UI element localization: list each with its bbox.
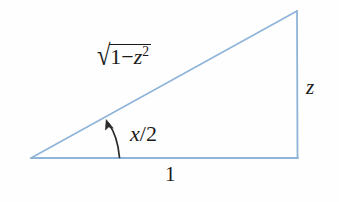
radicand-variable: z — [134, 44, 143, 69]
angle-variable: x — [130, 121, 140, 146]
opposite-side-label: z — [306, 77, 314, 98]
radicand-exponent: 2 — [142, 44, 149, 59]
geometry-figure: √1−z2 x/2 z 1 — [0, 0, 339, 202]
triangle-hypotenuse-line — [31, 11, 297, 158]
angle-arrow-curve — [109, 124, 120, 158]
hypotenuse-label: √1−z2 — [97, 44, 151, 71]
triangle-vertical-line — [297, 11, 298, 158]
angle-denominator: 2 — [146, 121, 157, 146]
radical-expression: √1−z2 — [97, 44, 151, 71]
radicand: 1−z2 — [109, 44, 151, 68]
radicand-minus-sign: − — [121, 44, 133, 69]
radicand-first-term: 1 — [110, 44, 121, 69]
base-side-label: 1 — [165, 164, 176, 185]
angle-label: x/2 — [130, 123, 157, 145]
